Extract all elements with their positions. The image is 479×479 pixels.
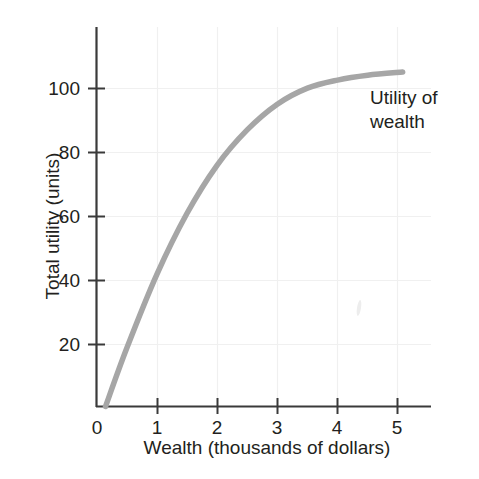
x-tick-label-5: 5 xyxy=(392,418,403,437)
x-tick-label-1: 1 xyxy=(152,418,163,437)
utility-of-wealth-label: Utility of wealth xyxy=(370,86,479,134)
x-tick-label-4: 4 xyxy=(332,418,343,437)
x-axis-label: Wealth (thousands of dollars) xyxy=(97,437,437,459)
y-tick-label-100: 100 xyxy=(10,79,80,98)
x-tick-label-0: 0 xyxy=(92,418,103,437)
plot-area xyxy=(0,0,479,479)
annotation-line-2: wealth xyxy=(370,110,479,134)
y-axis-label: Total utility (units) xyxy=(42,111,64,341)
annotation-line-1: Utility of xyxy=(370,86,479,110)
chart-figure: 100 80 60 40 20 0 1 2 3 4 5 Total utilit… xyxy=(0,0,479,479)
x-tick-label-3: 3 xyxy=(272,418,283,437)
x-tick-label-2: 2 xyxy=(212,418,223,437)
utility-of-wealth-curve xyxy=(106,72,403,406)
